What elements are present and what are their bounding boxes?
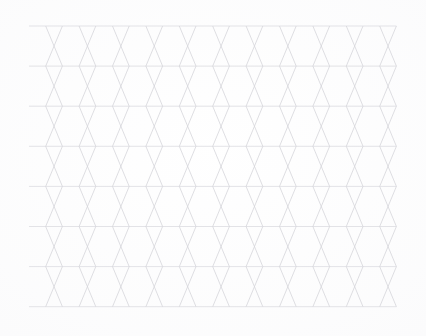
horizontal-grid-lines (29, 26, 396, 307)
diagonal-grid-lines-left (46, 26, 397, 307)
triangle-grid (0, 0, 426, 336)
grid-paper-page (0, 0, 426, 336)
